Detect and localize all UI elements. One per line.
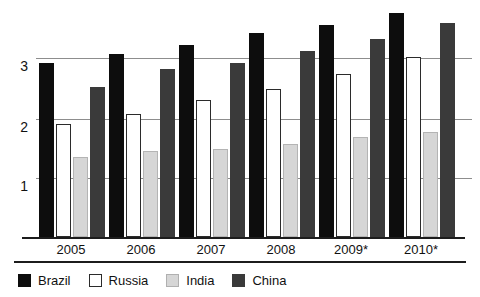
bar-group-2008 — [246, 8, 316, 237]
bar-chart: 3 2 1 — [0, 0, 480, 297]
bar-india-2005 — [73, 157, 88, 237]
y-tick-label-2: 2 — [20, 120, 28, 134]
bar-china-2009 — [370, 39, 385, 237]
bar-russia-2006 — [126, 114, 141, 237]
bar-india-2010 — [423, 132, 438, 237]
legend-label-russia: Russia — [109, 273, 149, 288]
bar-china-2007 — [230, 63, 245, 237]
plot-area — [36, 8, 472, 237]
bar-china-2006 — [160, 69, 175, 237]
legend-divider — [14, 261, 466, 263]
legend-item-china: China — [232, 273, 286, 288]
legend-label-india: India — [186, 273, 214, 288]
bar-brazil-2010 — [389, 13, 404, 237]
india-swatch-icon — [166, 274, 179, 287]
bar-russia-2009 — [336, 74, 351, 237]
bar-india-2008 — [283, 144, 298, 237]
x-axis-line — [22, 237, 465, 239]
bar-china-2005 — [90, 87, 105, 237]
x-axis-labels: 2005 2006 2007 2008 2009* 2010* — [36, 242, 472, 262]
russia-swatch-icon — [89, 274, 102, 287]
x-tick-label-2008: 2008 — [246, 242, 316, 257]
bar-russia-2008 — [266, 89, 281, 237]
bar-india-2006 — [143, 151, 158, 237]
bar-russia-2010 — [406, 57, 421, 237]
y-axis-labels: 3 2 1 — [0, 8, 34, 237]
bar-russia-2005 — [56, 124, 71, 237]
y-tick-label-3: 3 — [20, 59, 28, 73]
legend-item-india: India — [166, 273, 214, 288]
bar-india-2009 — [353, 137, 368, 237]
legend-label-china: China — [252, 273, 286, 288]
bar-group-2007 — [176, 8, 246, 237]
chart-legend: Brazil Russia India China — [18, 270, 304, 290]
x-tick-label-2009: 2009* — [316, 242, 386, 257]
x-tick-label-2005: 2005 — [36, 242, 106, 257]
x-tick-label-2006: 2006 — [106, 242, 176, 257]
bar-china-2008 — [300, 51, 315, 237]
bar-group-2009 — [316, 8, 386, 237]
bar-brazil-2007 — [179, 45, 194, 237]
bar-group-2005 — [36, 8, 106, 237]
legend-item-russia: Russia — [89, 273, 149, 288]
bar-brazil-2006 — [109, 54, 124, 237]
bar-brazil-2009 — [319, 25, 334, 237]
legend-item-brazil: Brazil — [18, 273, 71, 288]
legend-label-brazil: Brazil — [38, 273, 71, 288]
bar-group-2006 — [106, 8, 176, 237]
bar-russia-2007 — [196, 100, 211, 237]
y-tick-label-1: 1 — [20, 179, 28, 193]
china-swatch-icon — [232, 274, 245, 287]
bar-china-2010 — [440, 23, 455, 237]
bar-group-2010 — [386, 8, 456, 237]
x-tick-label-2007: 2007 — [176, 242, 246, 257]
bar-india-2007 — [213, 149, 228, 237]
bar-brazil-2005 — [39, 63, 54, 237]
brazil-swatch-icon — [18, 274, 31, 287]
x-tick-label-2010: 2010* — [386, 242, 456, 257]
bar-brazil-2008 — [249, 33, 264, 237]
